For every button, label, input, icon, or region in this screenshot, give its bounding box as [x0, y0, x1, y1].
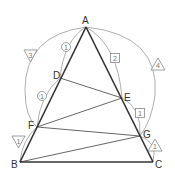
side-ac [86, 27, 153, 162]
svg-text:2: 2 [113, 55, 117, 62]
triangle-marker-icon: 4 [151, 58, 165, 70]
point-label-a: A [82, 15, 89, 26]
svg-text:1: 1 [138, 110, 142, 117]
svg-text:4: 4 [156, 62, 160, 69]
triangle-diagram: A B C D E F G 3 1 1 1 4 [0, 0, 175, 179]
circle-marker-icon: 1 [38, 92, 47, 101]
point-label-d: D [53, 70, 60, 81]
svg-text:1: 1 [17, 138, 21, 145]
square-marker-icon: 1 [136, 109, 145, 118]
svg-text:1: 1 [40, 93, 44, 100]
arc-a-g-outer [86, 27, 155, 136]
triangle-marker-icon: 1 [148, 139, 162, 151]
point-label-e: E [124, 92, 131, 103]
segment-gb [20, 136, 140, 162]
circle-marker-icon: 1 [62, 43, 71, 52]
side-ab [20, 27, 86, 162]
square-marker-icon: 2 [111, 54, 120, 63]
svg-text:1: 1 [153, 143, 157, 150]
point-label-c: C [155, 159, 162, 170]
point-label-g: G [143, 129, 151, 140]
svg-text:1: 1 [64, 44, 68, 51]
point-label-f: F [28, 120, 34, 131]
segment-fg [37, 127, 140, 136]
inverted-triangle-marker-icon: 3 [24, 50, 37, 62]
point-label-b: B [11, 159, 18, 170]
inverted-triangle-marker-icon: 1 [12, 136, 25, 148]
svg-text:3: 3 [29, 52, 33, 59]
